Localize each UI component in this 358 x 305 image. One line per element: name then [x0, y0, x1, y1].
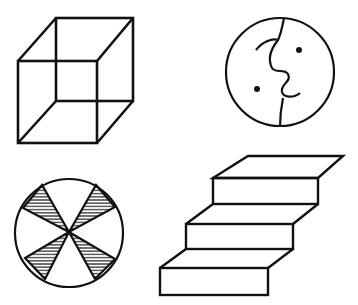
schroder-staircase [160, 156, 343, 295]
ambiguous-figures-canvas [0, 0, 358, 305]
face-profile-circle [226, 18, 334, 127]
eye-dot-right [296, 47, 302, 53]
eye-dot-left [254, 86, 260, 92]
necker-cube [18, 18, 133, 143]
hatched-wheel [15, 179, 123, 287]
